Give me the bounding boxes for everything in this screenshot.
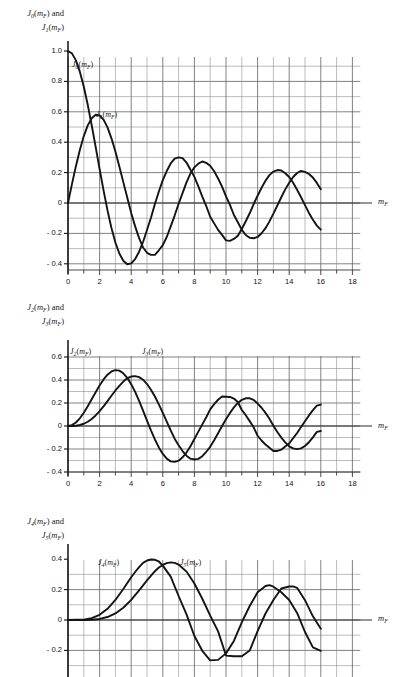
x-tick-label: 16 xyxy=(307,479,335,488)
x-tick-label: 0 xyxy=(54,277,82,286)
chart-plot-j2-j3 xyxy=(0,300,414,500)
x-tick-label: 6 xyxy=(149,479,177,488)
y-tick-label: 0.4 xyxy=(20,137,62,146)
bessel-function-figure: J0(mF) and J1(mF) mF J0(mF) J1(mF) J2(mF… xyxy=(0,0,414,677)
x-tick-label: 4 xyxy=(117,479,145,488)
x-tick-label: 18 xyxy=(338,277,366,286)
chart-plot-j0-j1 xyxy=(0,0,414,300)
y-tick-label: - 0.2 xyxy=(20,228,62,237)
x-axis-label-j4-j5: mF xyxy=(378,613,388,624)
y-tick-label: 0 xyxy=(20,198,62,207)
y-tick-label: - 0.4 xyxy=(20,259,62,268)
y-tick-label: - 0.2 xyxy=(20,444,62,453)
x-tick-label: 4 xyxy=(117,277,145,286)
y-tick-label: 0 xyxy=(20,615,62,624)
y-axis-label-j2-j3: J2(mF) and J3(mF) xyxy=(6,302,64,330)
y-tick-label: 0.8 xyxy=(20,76,62,85)
x-tick-label: 18 xyxy=(338,479,366,488)
y-tick-label: 0.6 xyxy=(20,352,62,361)
y-axis-label-j4-j5: J4(mF) and J5(mF) xyxy=(6,516,64,544)
x-tick-label: 8 xyxy=(180,277,208,286)
x-tick-label: 12 xyxy=(244,479,272,488)
y-tick-label: - 0.2 xyxy=(20,645,62,654)
y-tick-label: 0.2 xyxy=(20,585,62,594)
x-tick-label: 2 xyxy=(86,479,114,488)
y-tick-label: 0.2 xyxy=(20,168,62,177)
x-tick-label: 12 xyxy=(244,277,272,286)
chart-panel-j2-j3 xyxy=(0,300,414,500)
x-tick-label: 2 xyxy=(86,277,114,286)
y-tick-label: 0 xyxy=(20,421,62,430)
curve-label-j3: J3(mF) xyxy=(142,347,163,357)
x-axis-label-j0-j1: mF xyxy=(378,196,388,207)
y-tick-label: 0.4 xyxy=(20,554,62,563)
x-tick-label: 10 xyxy=(212,277,240,286)
x-tick-label: 8 xyxy=(180,479,208,488)
y-tick-label: 0.2 xyxy=(20,398,62,407)
x-tick-label: 14 xyxy=(275,277,303,286)
curve-label-j2: J2(mF) xyxy=(70,347,91,357)
y-tick-label: 0.4 xyxy=(20,375,62,384)
x-tick-label: 0 xyxy=(54,479,82,488)
y-axis-label-j0-j1: J0(mF) and J1(mF) xyxy=(6,8,64,36)
curve-label-j0: J0(mF) xyxy=(72,60,93,70)
x-tick-label: 6 xyxy=(149,277,177,286)
y-tick-label: 1.0 xyxy=(20,46,62,55)
curve-label-j1: J1(mF) xyxy=(96,110,117,120)
x-tick-label: 10 xyxy=(212,479,240,488)
y-tick-label: - 0.4 xyxy=(20,467,62,476)
y-tick-label: 0.6 xyxy=(20,107,62,116)
chart-panel-j0-j1 xyxy=(0,0,414,300)
x-axis-label-j2-j3: mF xyxy=(378,420,388,431)
x-tick-label: 14 xyxy=(275,479,303,488)
x-tick-label: 16 xyxy=(307,277,335,286)
curve-label-j4: J4(mF) xyxy=(98,558,119,568)
curve-label-j5: J5(mF) xyxy=(180,558,201,568)
